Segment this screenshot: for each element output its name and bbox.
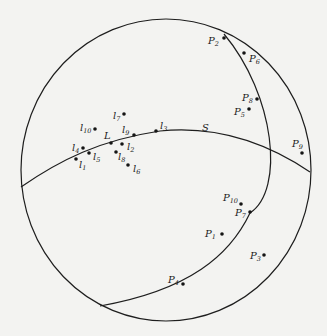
point-l1-label: l1 <box>79 159 86 172</box>
great-circle-S <box>21 130 310 187</box>
point-l9-label: l9 <box>122 124 129 137</box>
point-P4-marker <box>181 282 185 286</box>
point-P8-marker <box>255 97 259 101</box>
point-l8-label: l8 <box>118 151 125 164</box>
point-l1-marker <box>74 157 78 161</box>
point-P8-label: P8 <box>241 92 253 105</box>
point-l5-label: l5 <box>93 151 100 164</box>
point-P5-label: P5 <box>233 106 245 119</box>
point-P7-marker <box>248 210 252 214</box>
great-circle-P <box>100 34 271 306</box>
point-l4-label: l4 <box>72 142 79 155</box>
point-P1-marker <box>220 232 224 236</box>
point-P10-label: P10 <box>222 192 238 205</box>
stereographic-diagram: Ll1l2l3l4l5l6l7l8l9l10P1P2P3P4P5P6P7P8P9… <box>0 0 327 336</box>
point-l3-marker <box>154 129 158 133</box>
point-P5-marker <box>247 107 251 111</box>
point-l7-label: l7 <box>113 110 121 123</box>
point-l2-marker <box>120 142 124 146</box>
point-l2-label: l2 <box>127 141 134 154</box>
point-P9-marker <box>300 151 304 155</box>
point-P6-label: P6 <box>248 53 260 66</box>
point-P1-label: P1 <box>204 228 216 241</box>
point-P3-marker <box>262 253 266 257</box>
point-l10-marker <box>93 127 97 131</box>
point-l5-marker <box>87 151 91 155</box>
point-L-marker <box>109 141 113 145</box>
point-P2-marker <box>222 36 226 40</box>
point-L-label: L <box>103 130 111 141</box>
point-l6-marker <box>126 163 130 167</box>
point-l4-marker <box>81 146 85 150</box>
point-P2-label: P2 <box>207 35 219 48</box>
point-l7-marker <box>122 112 126 116</box>
point-l6-label: l6 <box>133 163 140 176</box>
primitive-circle <box>21 19 311 321</box>
point-P6-marker <box>242 51 246 55</box>
point-P10-marker <box>239 202 243 206</box>
points-layer: Ll1l2l3l4l5l6l7l8l9l10P1P2P3P4P5P6P7P8P9… <box>72 35 304 287</box>
point-l9-marker <box>132 133 136 137</box>
point-P9-label: P9 <box>291 138 303 151</box>
great-circle-S-label: S <box>202 122 209 133</box>
point-P3-label: P3 <box>249 250 261 263</box>
diagram-canvas: Ll1l2l3l4l5l6l7l8l9l10P1P2P3P4P5P6P7P8P9… <box>0 0 327 336</box>
point-l10-label: l10 <box>80 122 91 135</box>
point-P7-label: P7 <box>234 207 247 220</box>
